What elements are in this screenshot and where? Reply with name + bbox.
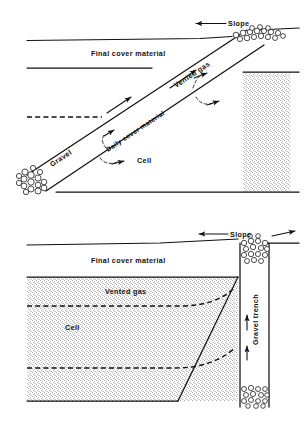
top-cell-label: Cell [137,156,152,165]
bottom-gravel-trench-label: Gravel trench [251,294,260,345]
diagram-canvas: Slope Final cover material Vented gas Da… [0,0,306,435]
figure-root: Slope Final cover material Vented gas Da… [0,0,306,435]
bottom-panel: Slope Final cover material Vented gas Ce… [27,230,299,409]
bottom-cell-label: Cell [65,323,80,332]
bottom-gravel-base [242,385,270,408]
bottom-slope-label: Slope [230,230,251,239]
bottom-vented-gas-label: Vented gas [105,287,146,296]
top-panel: Slope Final cover material Vented gas Da… [16,19,299,195]
top-ground-surface-line [27,37,232,41]
top-slope-label: Slope [228,19,249,28]
bottom-final-cover-label: Final cover material [91,256,166,265]
top-final-cover-label: Final cover material [91,49,166,58]
bottom-slope-arrow-right-icon [272,231,295,236]
bottom-ground-surface-left [27,239,238,245]
